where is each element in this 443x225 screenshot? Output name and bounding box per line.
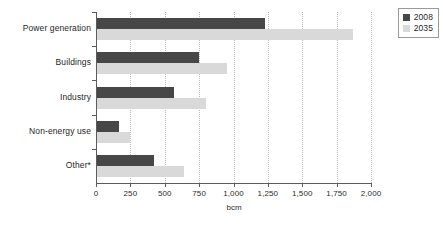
x-tick	[96, 183, 97, 187]
x-axis-title: bcm	[96, 203, 372, 212]
bar-2008-power-generation	[96, 18, 265, 29]
legend-item: 2008	[403, 12, 433, 23]
category-label: Industry	[60, 92, 91, 102]
y-tick	[92, 80, 96, 81]
category-label: Other*	[66, 160, 91, 170]
x-tick-label: 2,000	[361, 189, 382, 198]
bar-chart: 02505007501,0001,2501,5001,7502,000 Powe…	[0, 0, 443, 225]
bar-2035-non-energy-use	[96, 132, 130, 143]
legend-swatch-icon	[403, 14, 410, 21]
plot-area	[96, 12, 371, 183]
y-tick	[92, 115, 96, 116]
bar-2035-industry	[96, 98, 206, 109]
legend: 20082035	[398, 8, 439, 38]
gridline	[371, 12, 373, 183]
legend-label: 2035	[414, 23, 433, 34]
legend-swatch-icon	[403, 25, 410, 32]
y-tick	[92, 12, 96, 13]
x-tick-label: 500	[158, 189, 172, 198]
bar-2035-buildings	[96, 63, 227, 74]
legend-label: 2008	[414, 12, 433, 23]
bar-2008-other	[96, 155, 154, 166]
y-axis-line	[96, 12, 97, 184]
x-tick-label: 1,750	[326, 189, 347, 198]
category-axis-labels: Power generationBuildingsIndustryNon-ene…	[0, 12, 91, 183]
x-tick	[130, 183, 131, 187]
x-tick-label: 250	[124, 189, 138, 198]
legend-item: 2035	[403, 23, 433, 34]
x-tick-label: 1,250	[258, 189, 279, 198]
bar-2035-other	[96, 166, 184, 177]
bar-2008-buildings	[96, 52, 199, 63]
y-tick	[92, 149, 96, 150]
x-tick-label: 750	[192, 189, 206, 198]
x-tick-label: 0	[94, 189, 99, 198]
x-tick-label: 1,500	[292, 189, 313, 198]
category-label: Power generation	[23, 23, 91, 33]
x-tick-label: 1,000	[223, 189, 244, 198]
x-tick	[337, 183, 338, 187]
bar-2008-industry	[96, 87, 174, 98]
x-tick	[302, 183, 303, 187]
bar-2035-power-generation	[96, 29, 353, 40]
x-tick	[268, 183, 269, 187]
x-tick	[371, 183, 372, 187]
x-tick	[199, 183, 200, 187]
y-tick	[92, 46, 96, 47]
x-tick	[165, 183, 166, 187]
category-label: Non-energy use	[29, 126, 91, 136]
bar-2008-non-energy-use	[96, 121, 119, 132]
category-label: Buildings	[56, 57, 91, 67]
x-tick	[234, 183, 235, 187]
